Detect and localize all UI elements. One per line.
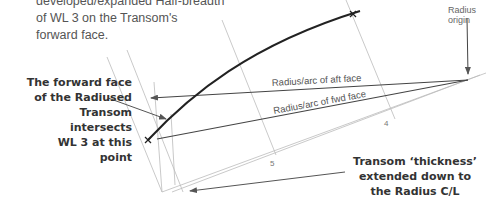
forward-face-callout-line-3: Transom intersects [22, 105, 132, 135]
thickness-callout-line-2: extended down to [340, 169, 490, 184]
guide-line-4 [171, 114, 175, 185]
thickness-callout: Transom ‘thickness’ extended down to the… [340, 154, 490, 199]
aft-face-label: Radius/arc of aft face [271, 72, 361, 88]
guide-line-2 [127, 50, 183, 192]
forward-face-callout-line-1: The forward face [22, 75, 132, 90]
thickness-callout-line-3: the Radius C/L [340, 184, 490, 199]
radius-origin-pointer [467, 18, 468, 74]
top-caption-line-1: developed/expanded Half-breadth [36, 0, 226, 10]
radius-lines [151, 80, 468, 139]
top-caption-line-3: forward face. [36, 27, 226, 44]
callout-arrows [108, 98, 345, 191]
forward-face-callout-line-2: of the Radiused [22, 90, 132, 105]
guide-line-station-5 [222, 20, 276, 155]
thickness-callout-line-1: Transom ‘thickness’ [340, 154, 490, 169]
radius-origin-label: Radius origin [448, 5, 499, 25]
forward-face-callout-line-4: WL 3 at this point [22, 135, 132, 165]
top-caption-line-2: of WL 3 on the Transom's [36, 10, 226, 27]
station-5-label: 5 [270, 159, 275, 168]
forward-face-callout: The forward face of the Radiused Transom… [22, 75, 132, 165]
thickness-arrow [190, 172, 345, 191]
top-caption: developed/expanded Half-breadth of WL 3 … [36, 0, 226, 44]
station-4-label: 4 [384, 119, 389, 128]
